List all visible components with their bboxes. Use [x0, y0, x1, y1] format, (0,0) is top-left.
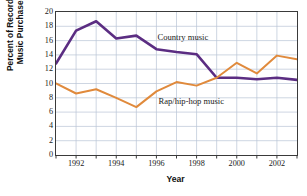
- x-tick-label: 1994: [99, 159, 133, 168]
- x-tick-label: 1992: [59, 159, 93, 168]
- x-tick-label: 2002: [260, 159, 294, 168]
- x-tick-label: 1998: [180, 159, 214, 168]
- x-tick-label: 2000: [220, 159, 254, 168]
- x-axis-tick-labels: 199219941996199820002002: [0, 0, 307, 196]
- x-axis-title: Year: [48, 174, 303, 184]
- x-tick-label: 1996: [139, 159, 173, 168]
- x-axis-ticks: [55, 155, 298, 160]
- chart-figure: Percent of Recorded Music Purchases 0246…: [0, 0, 307, 196]
